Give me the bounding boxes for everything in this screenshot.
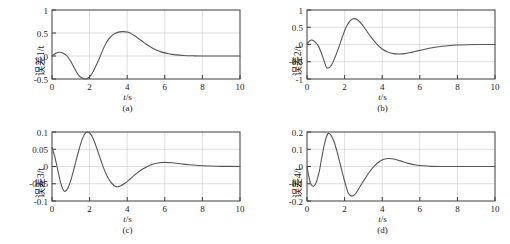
panel-c-caption: (c) — [0, 225, 255, 235]
panel-a-xtick-5: 10 — [236, 82, 246, 92]
panel-d-xtick-4: 8 — [455, 204, 460, 214]
panel-b: 误差2/t — [255, 0, 510, 122]
panel-c-ytickmarks — [52, 132, 56, 201]
panel-a-xlabel: t/s — [0, 92, 255, 102]
panel-d-xtick-1: 2 — [342, 204, 347, 214]
panel-a-caption: (a) — [0, 103, 255, 113]
panel-d-caption: (d) — [255, 225, 510, 235]
panel-b-caption: (b) — [255, 103, 510, 113]
panel-d-xtick-2: 4 — [380, 204, 385, 214]
panel-d-xtick-5: 10 — [491, 204, 501, 214]
panel-d-ytick-0: 0.2 — [292, 128, 303, 138]
panel-b-ytick-0: 1 — [299, 6, 304, 16]
panel-a: 误差1/t — [0, 0, 255, 122]
panel-d-xlabel: t/s — [255, 214, 510, 224]
panel-a-xtick-3: 6 — [163, 82, 168, 92]
panel-c-xtick-2: 4 — [125, 204, 130, 214]
panel-b-xtick-5: 10 — [491, 82, 501, 92]
panel-d-xtickmarks — [307, 197, 495, 201]
panel-c: 误差3/t — [0, 122, 255, 244]
panel-c-xtickmarks — [52, 197, 240, 201]
panel-a-ytickmarks — [52, 10, 56, 79]
panel-b-curve — [307, 19, 495, 69]
panel-a-xtick-1: 2 — [87, 82, 92, 92]
panel-b-ylabel: 误差2/t — [292, 21, 303, 101]
panel-c-curve — [52, 132, 240, 191]
panel-b-xtick-3: 6 — [418, 82, 423, 92]
panel-c-ylabel: 误差3/t — [35, 143, 46, 223]
panel-b-xtick-2: 4 — [380, 82, 385, 92]
panel-d-ytickmarks — [307, 132, 311, 201]
panel-c-xtick-3: 6 — [163, 204, 168, 214]
panel-c-xtick-4: 8 — [200, 204, 205, 214]
panel-c-xtick-1: 2 — [87, 204, 92, 214]
panel-c-ytick-0: 0.1 — [37, 128, 48, 138]
panel-d-curve — [307, 133, 495, 196]
panel-b-xtick-1: 2 — [342, 82, 347, 92]
panel-a-xtick-0: 0 — [50, 82, 55, 92]
panel-a-ytick-0: 1 — [44, 6, 49, 16]
panel-d-xtick-0: 0 — [305, 204, 310, 214]
panel-a-xtick-4: 8 — [200, 82, 205, 92]
panel-d-ylabel: 误差4/t — [292, 143, 303, 223]
panel-c-xtick-5: 10 — [236, 204, 246, 214]
panel-d-xtick-3: 6 — [418, 204, 423, 214]
panel-a-curve — [52, 32, 240, 79]
panel-c-xtick-0: 0 — [50, 204, 55, 214]
panel-a-ylabel: 误差1/t — [35, 21, 46, 101]
panel-a-xtick-2: 4 — [125, 82, 130, 92]
figure-four-panel-error-plots: 误差1/t — [0, 0, 510, 244]
panel-d: 误差4/t — [255, 122, 510, 244]
panel-b-xtickmarks — [307, 75, 495, 79]
panel-c-xlabel: t/s — [0, 214, 255, 224]
panel-b-xtick-0: 0 — [305, 82, 310, 92]
panel-b-xlabel: t/s — [255, 92, 510, 102]
panel-b-xtick-4: 8 — [455, 82, 460, 92]
